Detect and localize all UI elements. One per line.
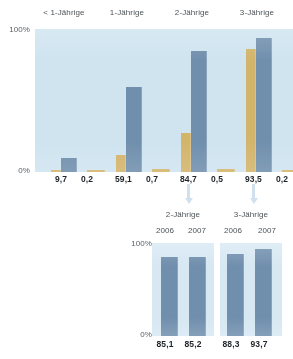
bar-tan-small-3year <box>282 170 293 172</box>
main-y-axis-tick-bottom: 0% <box>0 166 30 175</box>
value-label-2year-secondary: 0,5 <box>211 174 223 184</box>
value-label-under-1-primary: 9,7 <box>55 174 67 184</box>
sub-y-axis-tick-top: 100% <box>122 239 152 248</box>
value-label-2year-primary: 84,7 <box>180 174 197 184</box>
value-label-1year-primary: 59,1 <box>115 174 132 184</box>
sub-value-label-3year-2007: 93,7 <box>241 339 277 349</box>
sub-bar-2year-2007 <box>189 257 206 336</box>
down-arrow-icon-right <box>249 184 258 204</box>
detail-bar-chart: 2-Jährige 3-Jährige 2006 2007 2006 2007 … <box>0 205 293 359</box>
main-plot-area <box>35 29 293 172</box>
main-bar-chart: < 1-Jährige 1-Jährige 2-Jährige 3-Jährig… <box>0 0 293 190</box>
value-label-under-1-secondary: 0,2 <box>81 174 93 184</box>
sub-year-label-2year-2006: 2006 <box>150 226 180 235</box>
bar-tan-small-under-1 <box>87 170 105 172</box>
sub-group-header-3year: 3-Jährige <box>220 210 282 219</box>
bar-blue-2year <box>191 51 207 172</box>
value-label-1year-secondary: 0,7 <box>146 174 158 184</box>
sub-year-label-3year-2007: 2007 <box>252 226 282 235</box>
sub-year-label-2year-2007: 2007 <box>182 226 212 235</box>
sub-y-axis-tick-bottom: 0% <box>122 330 152 339</box>
bar-tan-1year <box>116 155 126 172</box>
bar-tan-small-2year <box>217 169 235 172</box>
bar-tan-under-1 <box>51 170 61 172</box>
sub-bar-2year-2006 <box>161 257 178 336</box>
group-header-3year: 3-Jährige <box>228 8 286 17</box>
value-label-3year-secondary: 0,2 <box>276 174 288 184</box>
group-header-1year: 1-Jährige <box>98 8 156 17</box>
bar-blue-3year <box>256 38 272 172</box>
sub-plot-area-3year <box>220 243 282 336</box>
group-header-2year: 2-Jährige <box>163 8 221 17</box>
sub-bar-3year-2007 <box>255 249 272 336</box>
sub-group-header-2year: 2-Jährige <box>152 210 214 219</box>
sub-year-label-3year-2006: 2006 <box>218 226 248 235</box>
vaccination-statistics-figure: < 1-Jährige 1-Jährige 2-Jährige 3-Jährig… <box>0 0 293 359</box>
sub-value-label-2year-2007: 85,2 <box>175 339 211 349</box>
value-label-3year-primary: 93,5 <box>245 174 262 184</box>
sub-plot-area-2year <box>152 243 214 336</box>
bar-blue-1year <box>126 87 142 172</box>
down-arrow-icon-left <box>184 184 193 204</box>
bar-blue-under-1 <box>61 158 77 172</box>
bar-tan-2year <box>181 133 191 172</box>
main-y-axis-tick-top: 100% <box>0 25 30 34</box>
group-header-under-1: < 1-Jährige <box>35 8 93 17</box>
bar-tan-3year <box>246 49 256 172</box>
sub-bar-3year-2006 <box>227 254 244 336</box>
bar-tan-small-1year <box>152 169 170 172</box>
